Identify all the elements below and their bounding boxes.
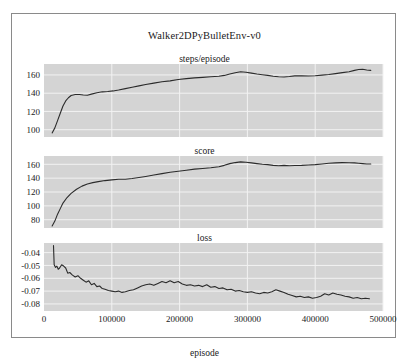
y-axis-tick-label: 80 <box>31 215 41 225</box>
y-axis-tick-label: 140 <box>27 88 41 98</box>
y-axis-tick-label: -0.06 <box>21 273 40 283</box>
y-axis-tick-label: 160 <box>27 160 41 170</box>
x-axis-tick-label: 100000 <box>98 314 126 324</box>
y-axis-tick-label: 160 <box>27 70 41 80</box>
chart-canvas: 10012014016080100120140160-0.04-0.05-0.0… <box>12 14 397 339</box>
y-axis-tick-label: -0.05 <box>21 261 40 271</box>
y-axis-tick-label: 140 <box>27 173 41 183</box>
x-axis-tick-label: 0 <box>42 314 47 324</box>
panel-1-group: 100120140160 <box>27 64 384 137</box>
panel-3-group: -0.04-0.05-0.06-0.07-0.08010000020000030… <box>21 243 397 324</box>
panel-2-group: 80100120140160 <box>27 156 384 228</box>
panel-background <box>44 243 383 311</box>
x-axis-tick-label: 400000 <box>302 314 330 324</box>
x-axis-label: episode <box>12 348 397 358</box>
x-axis-tick-label: 300000 <box>234 314 262 324</box>
x-axis-tick-label: 500000 <box>370 314 398 324</box>
figure-frame: Walker2DPyBulletEnv-v0 steps/episode sco… <box>11 13 396 338</box>
y-axis-tick-label: -0.07 <box>21 286 40 296</box>
y-axis-tick-label: 120 <box>27 187 41 197</box>
x-axis-tick-label: 200000 <box>166 314 194 324</box>
y-axis-tick-label: -0.08 <box>21 299 40 309</box>
y-axis-tick-label: 100 <box>27 125 41 135</box>
y-axis-tick-label: -0.04 <box>21 248 40 258</box>
y-axis-tick-label: 100 <box>27 201 41 211</box>
y-axis-tick-label: 120 <box>27 107 41 117</box>
